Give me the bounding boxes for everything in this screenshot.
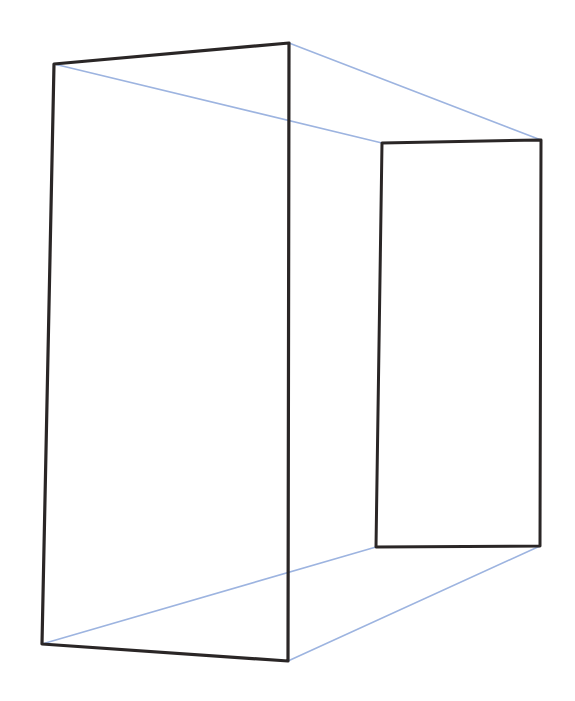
connector-edge-top-left [54,64,382,143]
front-face-rectangle [42,43,289,661]
connector-edge-bottom-right [288,546,540,661]
connector-edges [42,43,541,661]
connector-edge-bottom-left [42,547,376,644]
back-face-rectangle [376,140,541,547]
connector-edge-top-right [289,43,541,140]
drawing-canvas [0,0,575,701]
perspective-box-figure [0,0,575,701]
